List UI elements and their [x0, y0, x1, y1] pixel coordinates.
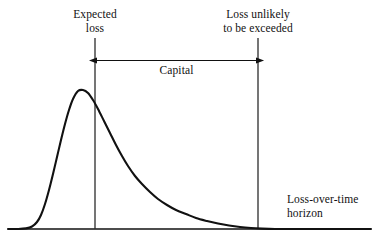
loss-distribution-figure: Expected loss Loss unlikely to be exceed…: [0, 0, 373, 241]
loss-unlikely-label: Loss unlikely to be exceeded: [183, 8, 333, 35]
x-axis-label: Loss-over-time horizon: [287, 193, 373, 220]
capital-label: Capital: [117, 64, 237, 78]
expected-loss-label: Expected loss: [30, 8, 160, 35]
